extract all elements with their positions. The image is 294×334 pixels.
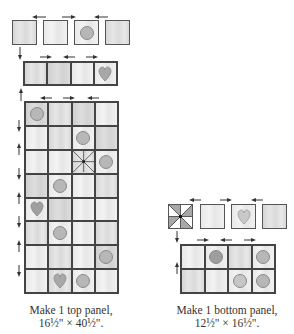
grid-cell <box>72 102 95 126</box>
strip-unit <box>47 62 70 85</box>
strip-unit <box>94 62 117 85</box>
circle-applique-icon <box>256 274 270 288</box>
bottom-row1-square-2 <box>200 204 225 229</box>
top-panel-grid <box>24 101 119 294</box>
grid-cell <box>72 269 95 293</box>
arrow-left-icon <box>94 14 108 20</box>
arrow-right-icon <box>86 54 98 60</box>
arrow-up-icon <box>16 240 22 252</box>
grid-cell <box>72 126 95 150</box>
grid-cell <box>181 269 205 293</box>
strip-unit <box>24 62 47 85</box>
grid-cell <box>95 221 118 245</box>
grid-cell <box>25 198 48 222</box>
grid-cell <box>48 174 71 198</box>
grid-cell <box>205 269 229 293</box>
pinwheel-block-icon <box>73 151 94 172</box>
grid-cell <box>48 150 71 174</box>
arrow-left-icon <box>63 54 75 60</box>
arrow-down-icon <box>17 47 23 60</box>
bottom-row1-square-1 <box>168 204 193 229</box>
bottom-panel-caption-line1: Make 1 bottom panel, <box>160 304 294 317</box>
grid-cell <box>228 245 252 269</box>
grid-cell <box>95 269 118 293</box>
bottom-panel-grid <box>180 244 276 294</box>
grid-cell <box>48 269 71 293</box>
arrow-up-icon <box>16 192 22 204</box>
circle-applique-icon <box>209 250 223 264</box>
grid-cell <box>95 126 118 150</box>
grid-cell <box>72 150 95 174</box>
arrow-down-icon <box>16 265 22 277</box>
arrow-left-icon <box>32 14 46 20</box>
grid-cell <box>25 221 48 245</box>
top-row1-square-4 <box>105 20 130 45</box>
circle-applique-icon <box>99 250 113 264</box>
circle-applique-icon <box>233 274 247 288</box>
arrow-right-icon <box>244 237 256 243</box>
grid-cell <box>48 198 71 222</box>
circle-applique-icon <box>76 131 90 145</box>
circle-applique-icon <box>256 250 270 264</box>
grid-cell <box>95 174 118 198</box>
arrow-right-icon <box>40 54 52 60</box>
heart-applique-icon <box>237 209 251 225</box>
top-panel-caption: Make 1 top panel, 16½" × 40½". <box>0 304 142 330</box>
grid-cell <box>95 245 118 269</box>
arrow-left-icon <box>251 197 263 203</box>
grid-cell <box>181 245 205 269</box>
circle-applique-icon <box>80 26 94 40</box>
grid-cell <box>95 102 118 126</box>
grid-cell <box>48 126 71 150</box>
pinwheel-block-icon <box>169 205 192 228</box>
arrow-left-icon <box>220 237 232 243</box>
bottom-row1-square-3 <box>231 204 256 229</box>
heart-applique-icon <box>53 273 67 289</box>
arrow-up-icon <box>18 88 24 101</box>
top-panel-caption-line1: Make 1 top panel, <box>0 304 142 317</box>
arrow-down-icon <box>16 120 22 132</box>
grid-cell <box>25 150 48 174</box>
heart-applique-icon <box>30 201 44 217</box>
grid-cell <box>72 221 95 245</box>
top-row1-square-1 <box>12 20 37 45</box>
circle-applique-icon <box>30 107 44 121</box>
arrow-down-icon <box>16 216 22 228</box>
top-row1-square-3 <box>74 20 99 45</box>
grid-cell <box>48 102 71 126</box>
grid-cell <box>25 269 48 293</box>
arrow-down-icon <box>16 168 22 180</box>
heart-applique-icon <box>98 66 112 82</box>
grid-cell <box>25 102 48 126</box>
grid-cell <box>72 198 95 222</box>
grid-cell <box>72 174 95 198</box>
grid-cell <box>252 245 276 269</box>
grid-cell <box>228 269 252 293</box>
grid-cell <box>95 150 118 174</box>
grid-cell <box>25 174 48 198</box>
circle-applique-icon <box>53 179 67 193</box>
strip-unit <box>71 62 94 85</box>
grid-cell <box>205 245 229 269</box>
grid-cell <box>72 245 95 269</box>
arrow-left-icon <box>189 197 201 203</box>
grid-cell <box>48 245 71 269</box>
grid-cell <box>252 269 276 293</box>
arrow-right-icon <box>62 14 76 20</box>
arrow-up-icon <box>16 143 22 155</box>
grid-cell <box>25 126 48 150</box>
circle-applique-icon <box>99 155 113 169</box>
top-row1-square-2 <box>43 20 68 45</box>
circle-applique-icon <box>53 226 67 240</box>
arrow-right-icon <box>197 237 209 243</box>
arrow-down-icon <box>174 231 180 243</box>
top-panel-caption-line2: 16½" × 40½". <box>0 317 142 330</box>
grid-cell <box>95 198 118 222</box>
top-row2-strip <box>23 61 118 86</box>
bottom-row1-square-4 <box>262 204 287 229</box>
circle-applique-icon <box>76 274 90 288</box>
grid-cell <box>25 245 48 269</box>
arrow-right-icon <box>220 197 232 203</box>
bottom-panel-caption: Make 1 bottom panel, 12½" × 16½". <box>160 304 294 330</box>
grid-cell <box>48 221 71 245</box>
